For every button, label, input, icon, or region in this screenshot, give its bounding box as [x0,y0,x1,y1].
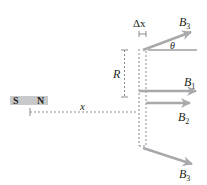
magnet-field-diagram: S N x Δx R θ [0,0,207,185]
delta-x-marker: Δx [133,17,146,37]
B2-arrow: B2 [146,103,190,126]
B3-bottom-label: B3 [179,167,190,183]
B2-label: B2 [178,110,189,126]
diagram-canvas: S N x Δx R θ [0,0,207,185]
north-pole-label: N [37,95,45,106]
B1-label: B1 [184,75,195,91]
B3-top-label: B3 [179,15,190,31]
B3-bottom-arrow: B3 [143,148,192,183]
current-loop [139,49,146,146]
radius-marker: R [112,50,128,97]
south-pole-label: S [13,95,19,106]
B3-top-arrow: B3 [143,15,191,50]
x-label: x [79,100,85,112]
delta-x-label: Δx [133,17,146,29]
bar-magnet: S N [10,95,48,106]
B1-arrow: B1 [139,75,196,91]
theta-label: θ [170,40,175,51]
R-label: R [112,67,121,81]
